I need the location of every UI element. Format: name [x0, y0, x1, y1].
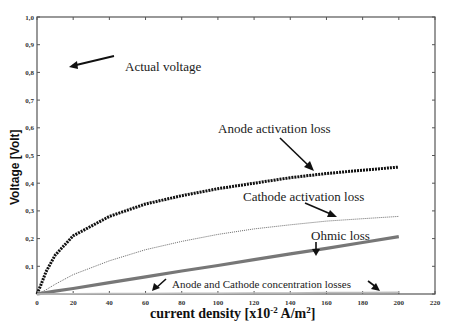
y-tick-label: 0,5 — [25, 152, 34, 160]
annotation-anode-activation-loss: Anode activation loss — [218, 121, 331, 136]
x-tick-label: 40 — [106, 299, 114, 307]
x-tick-label: 160 — [321, 299, 332, 307]
x-tick-label: 200 — [394, 299, 405, 307]
annotation-cathode-activation-loss: Cathode activation loss — [243, 189, 364, 204]
y-tick-label: 0,3 — [25, 207, 34, 215]
y-tick-label: 0,9 — [25, 41, 34, 49]
annotation-ohmic-loss: Ohmic loss — [311, 228, 370, 243]
y-tick-label: 0,7 — [25, 97, 34, 105]
y-tick-label: 0,2 — [25, 235, 34, 243]
x-tick-label: 60 — [142, 299, 150, 307]
y-axis-label: Voltage [Volt] — [8, 129, 22, 205]
x-axis-label: current density [x10-2 A/m2] — [150, 305, 315, 321]
y-tick-label: 1,0 — [25, 14, 34, 22]
x-tick-label: 0 — [35, 299, 39, 307]
y-tick-label: 0,1 — [25, 263, 34, 271]
voltage-loss-chart: 020406080100120140160180200220 0,10,20,3… — [0, 0, 451, 331]
annotation-concentration-losses: Anode and Cathode concentration losses — [172, 278, 351, 290]
x-tick-label: 220 — [430, 299, 441, 307]
y-tick-label: 0,4 — [25, 180, 34, 188]
x-tick-label: 20 — [70, 299, 78, 307]
y-tick-label: 0,6 — [25, 124, 34, 132]
annotation-actual-voltage: Actual voltage — [125, 59, 201, 74]
y-tick-label: 0,8 — [25, 69, 34, 77]
x-tick-label: 180 — [357, 299, 368, 307]
